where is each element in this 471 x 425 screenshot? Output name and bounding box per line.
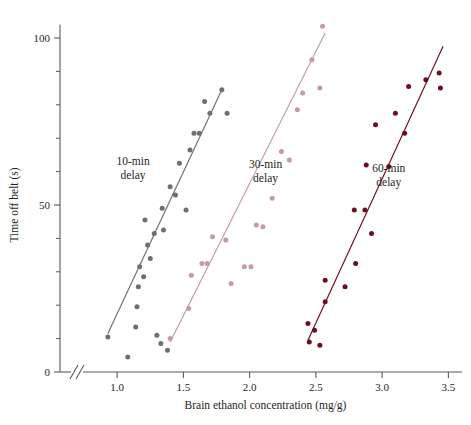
data-point (191, 131, 196, 136)
data-point (199, 261, 204, 266)
data-point (125, 354, 130, 359)
data-point (305, 321, 310, 326)
x-tick-label: 3.5 (442, 381, 456, 393)
data-point (343, 284, 348, 289)
scatter-chart: 050100 1.01.52.02.53.03.5 10-mindelay30-… (0, 0, 471, 425)
data-point (248, 264, 253, 269)
data-point (225, 111, 230, 116)
x-axis-title: Brain ethanol concentration (mg/g) (185, 399, 347, 412)
data-point (186, 306, 191, 311)
data-point (188, 147, 193, 152)
data-point (402, 131, 407, 136)
data-point (145, 243, 150, 248)
data-point (369, 231, 374, 236)
data-point (105, 334, 110, 339)
data-point (270, 196, 275, 201)
data-point (260, 224, 265, 229)
data-point (177, 161, 182, 166)
data-point (202, 99, 207, 104)
regression-line-3 (308, 46, 443, 340)
data-point (136, 284, 141, 289)
data-point (320, 24, 325, 29)
data-point (437, 71, 442, 76)
x-tick-label: 3.0 (375, 381, 389, 393)
data-point (148, 256, 153, 261)
data-point (373, 122, 378, 127)
data-point (364, 162, 369, 167)
data-point (133, 324, 138, 329)
series-label-2: 30-mindelay (249, 158, 282, 185)
data-point (279, 149, 284, 154)
x-tick-label: 1.5 (177, 381, 191, 393)
data-point (168, 184, 173, 189)
data-point (207, 111, 212, 116)
data-point (307, 339, 312, 344)
data-point (160, 206, 165, 211)
x-tick-label: 1.0 (110, 381, 124, 393)
data-point (173, 192, 178, 197)
y-tick-label: 50 (39, 199, 51, 211)
data-point (362, 208, 367, 213)
chart-canvas: 050100 1.01.52.02.53.03.5 10-mindelay30-… (0, 0, 471, 425)
data-point (393, 111, 398, 116)
y-axis-title: Time off belt (s) (8, 167, 21, 242)
data-point (210, 234, 215, 239)
y-tick-label: 0 (45, 366, 51, 378)
data-point (323, 299, 328, 304)
y-tick-label: 100 (34, 32, 51, 44)
x-tick-label: 2.0 (243, 381, 257, 393)
data-point (295, 107, 300, 112)
x-tick-label: 2.5 (309, 381, 323, 393)
series-annotations: 10-mindelay30-mindelay60-mindelay (116, 155, 405, 189)
data-point (205, 261, 210, 266)
data-point (229, 281, 234, 286)
data-point (353, 261, 358, 266)
data-point (287, 157, 292, 162)
data-point (158, 341, 163, 346)
series-label-1: 10-mindelay (116, 155, 149, 182)
data-point (137, 264, 142, 269)
data-point (154, 333, 159, 338)
data-point (317, 86, 322, 91)
regression-line-1 (108, 90, 222, 334)
data-point (242, 264, 247, 269)
data-point (254, 223, 259, 228)
data-point (135, 304, 140, 309)
data-point (189, 273, 194, 278)
data-point (142, 218, 147, 223)
data-point (323, 278, 328, 283)
data-point (152, 231, 157, 236)
data-point (168, 336, 173, 341)
x-axis: 1.01.52.02.53.03.5 (60, 365, 462, 393)
axis-titles: Brain ethanol concentration (mg/g)Time o… (8, 167, 347, 412)
data-point (317, 343, 322, 348)
y-axis: 050100 (34, 25, 61, 378)
data-point (300, 91, 305, 96)
data-point (406, 84, 411, 89)
regression-line-2 (170, 33, 325, 342)
data-point (309, 57, 314, 62)
series-label-3: 60-mindelay (372, 162, 405, 189)
data-point (141, 274, 146, 279)
data-point (197, 131, 202, 136)
data-point (438, 86, 443, 91)
data-point (161, 228, 166, 233)
data-point (423, 77, 428, 82)
data-points (105, 24, 443, 360)
data-point (165, 348, 170, 353)
data-point (219, 87, 224, 92)
data-point (352, 208, 357, 213)
data-point (223, 238, 228, 243)
data-point (184, 208, 189, 213)
data-point (312, 328, 317, 333)
